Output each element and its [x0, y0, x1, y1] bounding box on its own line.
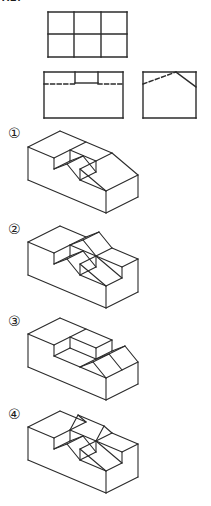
problem-figure-page: X2. ① ② ③ ④ — [0, 0, 211, 506]
option-3-figure — [28, 318, 138, 400]
option-3-label: ③ — [8, 314, 21, 328]
option-1-label: ① — [8, 126, 21, 140]
option-4-label: ④ — [8, 407, 21, 421]
option-4-figure — [28, 411, 138, 493]
side-view-figure — [143, 72, 196, 118]
option-1-figure — [28, 131, 138, 213]
option-2-figure — [28, 226, 138, 308]
figures-canvas — [0, 0, 211, 506]
option-2-label: ② — [8, 222, 21, 236]
front-view-figure — [44, 72, 123, 118]
top-view-figure — [48, 12, 127, 57]
